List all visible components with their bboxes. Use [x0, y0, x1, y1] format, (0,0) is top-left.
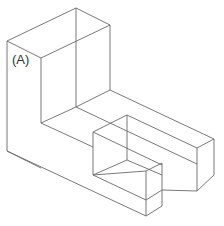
wireframe-edge — [146, 206, 162, 216]
wireframe-edge — [41, 123, 93, 147]
wireframe-edge — [127, 115, 197, 148]
wireframe-edge — [41, 107, 76, 123]
wireframe-edge — [76, 8, 110, 25]
isometric-wireframe-diagram — [0, 0, 224, 226]
wireframe-edge — [41, 25, 110, 58]
wireframe-edge — [162, 190, 197, 191]
wireframe-edge — [197, 175, 214, 191]
wireframe-edge — [76, 90, 110, 107]
label-a: (A) — [12, 52, 29, 67]
wireframe-edge — [197, 139, 214, 148]
wireframe-edge — [146, 190, 162, 200]
wireframe-edge — [93, 175, 146, 200]
wireframe-edge — [7, 151, 41, 168]
wireframe-edge — [76, 107, 197, 164]
wireframe-edge — [146, 163, 162, 171]
wireframe-edge — [7, 8, 76, 41]
